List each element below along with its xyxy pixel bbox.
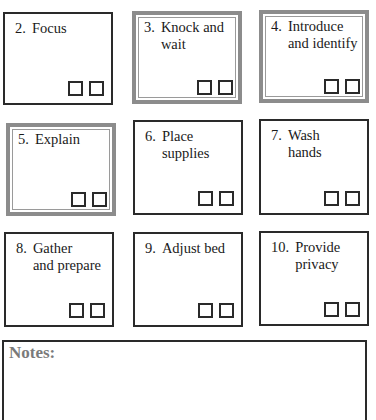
step-number: 7.	[271, 127, 282, 161]
checkbox-1[interactable]	[324, 302, 339, 317]
step-text: Knock and wait	[161, 19, 232, 53]
checkbox-group	[71, 192, 107, 207]
step-label: 6. Place supplies	[145, 128, 235, 162]
notes-title: Notes:	[9, 343, 55, 363]
step-card-7: 7. Wash hands	[259, 119, 369, 215]
checkbox-2[interactable]	[92, 192, 107, 207]
step-card-3: 3. Knock and wait	[132, 11, 242, 104]
checkbox-1[interactable]	[324, 79, 339, 94]
checkbox-1[interactable]	[69, 303, 84, 318]
checkbox-group	[198, 303, 234, 318]
checkbox-1[interactable]	[197, 80, 212, 95]
step-card-4: 4. Introduce and identify	[259, 10, 369, 103]
checkbox-2[interactable]	[219, 191, 234, 206]
step-number: 4.	[271, 18, 282, 52]
checkbox-group	[324, 302, 360, 317]
checkbox-1[interactable]	[71, 192, 86, 207]
step-number: 2.	[15, 20, 26, 37]
step-text: Gather and prepare	[33, 240, 106, 274]
checkbox-1[interactable]	[198, 303, 213, 318]
step-number: 8.	[16, 240, 27, 274]
checkbox-group	[198, 191, 234, 206]
step-number: 3.	[144, 19, 155, 53]
step-label: 2. Focus	[15, 20, 105, 37]
checkbox-1[interactable]	[198, 191, 213, 206]
checkbox-group	[197, 80, 233, 95]
checkbox-2[interactable]	[89, 81, 104, 96]
step-text: Introduce and identify	[288, 18, 359, 52]
step-card-10: 10. Provide privacy	[259, 231, 369, 326]
step-card-5: 5. Explain	[6, 123, 116, 216]
step-text: Explain	[35, 131, 106, 148]
step-card-2: 2. Focus	[3, 12, 113, 105]
checkbox-2[interactable]	[90, 303, 105, 318]
checkbox-1[interactable]	[68, 81, 83, 96]
step-card-6: 6. Place supplies	[133, 120, 243, 215]
step-number: 6.	[145, 128, 156, 162]
step-number: 5.	[18, 131, 29, 148]
step-text: Provide privacy	[295, 239, 361, 273]
step-card-9: 9. Adjust bed	[133, 232, 243, 327]
step-number: 10.	[271, 239, 289, 273]
step-label: 9. Adjust bed	[145, 240, 235, 257]
step-label: 4. Introduce and identify	[271, 18, 359, 52]
step-number: 9.	[145, 240, 156, 257]
checkbox-group	[68, 81, 104, 96]
step-text: Place supplies	[162, 128, 235, 162]
checkbox-group	[324, 79, 360, 94]
checkbox-2[interactable]	[218, 80, 233, 95]
checkbox-2[interactable]	[345, 79, 360, 94]
checkbox-group	[324, 191, 360, 206]
checkbox-2[interactable]	[219, 303, 234, 318]
checkbox-group	[69, 303, 105, 318]
step-label: 8. Gather and prepare	[16, 240, 106, 274]
step-text: Wash hands	[288, 127, 361, 161]
step-text: Focus	[32, 20, 105, 37]
checkbox-2[interactable]	[345, 302, 360, 317]
step-label: 5. Explain	[18, 131, 106, 148]
step-label: 10. Provide privacy	[271, 239, 361, 273]
step-label: 7. Wash hands	[271, 127, 361, 161]
step-card-8: 8. Gather and prepare	[4, 232, 114, 327]
checkbox-1[interactable]	[324, 191, 339, 206]
notes-box[interactable]: Notes:	[2, 340, 367, 420]
step-label: 3. Knock and wait	[144, 19, 232, 53]
checkbox-2[interactable]	[345, 191, 360, 206]
step-text: Adjust bed	[162, 240, 235, 257]
